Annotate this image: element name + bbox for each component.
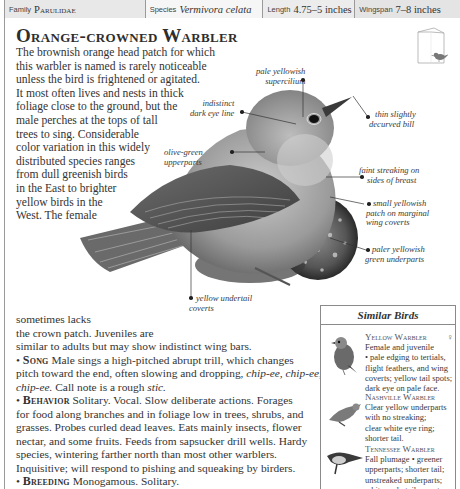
text-line: grasses. Probes curled dead leaves. Eats… [16,421,316,435]
annotation-dot [301,78,305,82]
annotation-bill: thin slightly decurved bill [369,110,416,129]
song-call: chip-ee. [16,381,52,393]
text-line: pitch toward the end, often slowing and … [16,367,316,381]
annotation-undertail: yellow undertail coverts [189,294,252,313]
annotation-line: supercilium [256,77,305,87]
text-line: species, wintering farther north than mo… [16,448,316,462]
call-note: stic. [147,381,166,393]
annotation-dot [367,202,371,206]
text-line: nectar, and some fruits. Feeds from saps… [16,435,316,449]
annotation-wing-coverts: small yellowish patch on marginal wing c… [366,199,429,228]
similar-bird-name: Yellow Warbler [365,332,427,342]
similar-birds-heading: Similar Birds [321,306,455,325]
annotation-line: decurved bill [369,120,416,130]
annotation-dot [366,248,370,252]
nashville-warbler-thumbnail-icon [325,400,363,430]
text-span: Male sings a high-pitched abrupt trill, … [49,354,294,366]
female-symbol-icon: ♀ [447,332,453,342]
tennessee-warbler-thumbnail-icon [325,446,365,480]
annotation-eye-line: indistinct dark eye line [190,99,234,118]
annotation-line: green underparts [365,255,425,265]
text-line: sometimes lacks [16,313,316,327]
breeding-section: • Breeding Monogamous. Solitary. [16,475,316,489]
description-line: shorter tail. [365,433,447,443]
species-details: sometimes lacks the crown patch. Juvenil… [16,313,316,489]
text-line: the crown patch. Juveniles are [16,327,316,341]
annotation-dot [360,175,364,179]
text-line: chip-ee. Call note is a rough stic. [16,381,316,395]
description-line: Clear yellow underparts [365,402,447,412]
description-line: upperparts; shorter tail; [365,464,445,474]
text-span: Solitary. Vocal. Slow deliberate actions… [70,394,293,406]
description-line: Fall plumage • greener [365,454,445,464]
annotation-upperparts: olive-green upperparts [164,148,203,167]
yellow-warbler-thumbnail-icon [325,333,363,375]
song-heading: Song [23,353,49,367]
warbler-illustration [0,0,460,320]
breeding-heading: Breeding [23,474,70,488]
bird-bill [322,97,352,117]
yellow-warbler-text: Yellow Warbler ♀ Female and juvenile • p… [365,332,453,393]
annotation-dot [230,150,234,154]
bird-eye [309,115,319,123]
similar-bird-nashville-warbler: Nashville Warbler Clear yellow underpart… [321,392,457,444]
nashville-warbler-text: Nashville Warbler Clear yellow underpart… [365,392,447,443]
description-line: coverts; yellow tail spots; [365,373,453,383]
annotation-line: wing coverts [366,218,429,228]
annotation-line: coverts [189,304,252,314]
description-line: clear white eye ring; [365,423,447,433]
annotation-underparts: paler yellowish green underparts [365,245,425,264]
description-line: white undertail coverts. [365,485,445,489]
song-call: chip-ee, chip-ee, [246,367,322,379]
annotation-line: upperparts [164,158,203,168]
text-line: Inquisitive; will respond to pishing and… [16,462,316,476]
text-span: pitch toward the end, often slowing and … [16,367,246,379]
similar-bird-yellow-warbler: Yellow Warbler ♀ Female and juvenile • p… [321,328,457,388]
annotation-line: dark eye line [190,109,234,119]
similar-bird-tennessee-warbler: Tennessee Warbler Fall plumage • greener… [321,444,457,489]
description-line: unstreaked underparts; [365,475,445,485]
annotation-line: sides of breast [359,176,419,186]
annotation-dot [240,110,244,114]
annotation-streaking: faint streaking on sides of breast [359,166,419,185]
text-span: Monogamous. Solitary. [70,475,179,487]
text-line: similar to adults but may show indistinc… [16,340,316,354]
description-line: flight feathers, and wing [365,363,453,373]
annotation-dot [366,115,370,119]
text-line: for food along branches and in foliage l… [16,408,316,422]
tennessee-warbler-text: Tennessee Warbler Fall plumage • greener… [365,444,445,489]
description-line: with no streaking; [365,412,447,422]
annotation-dot [189,296,193,300]
similar-bird-name: Nashville Warbler [365,392,447,402]
description-line: Female and juvenile [365,342,453,352]
similar-bird-name: Tennessee Warbler [365,444,445,454]
similar-birds-panel: Similar Birds Yellow Warbler ♀ Female an… [320,305,456,489]
description-line: • pale edging to tertials, [365,352,453,362]
behavior-section: • Behavior Solitary. Vocal. Slow deliber… [16,394,316,408]
behavior-heading: Behavior [23,393,70,407]
annotation-supercilium: pale yellowish supercilium [256,67,305,86]
song-section: • Song Male sings a high-pitched abrupt … [16,354,316,368]
text-span: Call note is a rough [52,381,147,393]
